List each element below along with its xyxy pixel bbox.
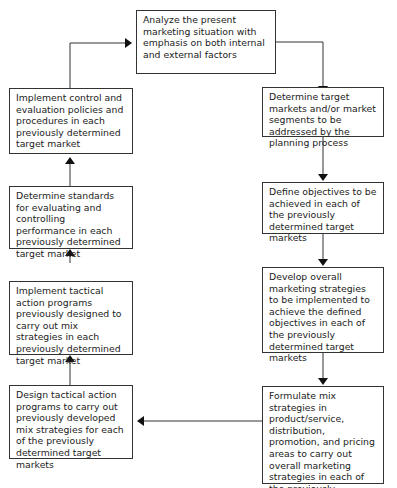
step-analyze: Analyze the present marketing situation … — [136, 10, 276, 74]
step-target: Determine target markets and/or market s… — [262, 87, 384, 137]
step-mix: Formulate mix strategies in product/serv… — [262, 386, 384, 484]
step-control: Implement control and evaluation policie… — [9, 88, 133, 154]
edge-control-analyze — [70, 43, 125, 88]
arrowhead — [125, 38, 132, 48]
arrowhead — [65, 157, 75, 164]
arrowhead — [318, 174, 328, 181]
arrowhead — [318, 259, 328, 266]
edge-analyze-target — [276, 42, 323, 86]
step-strategies: Develop overall marketing strategies to … — [262, 267, 384, 353]
step-design: Design tactical action programs to carry… — [9, 385, 133, 459]
step-implement: Implement tactical action programs previ… — [9, 281, 133, 355]
arrowhead — [318, 378, 328, 385]
arrowhead — [137, 416, 144, 426]
step-standards: Determine standards for evaluating and c… — [9, 186, 133, 249]
step-objectives: Define objectives to be achieved in each… — [262, 182, 384, 234]
